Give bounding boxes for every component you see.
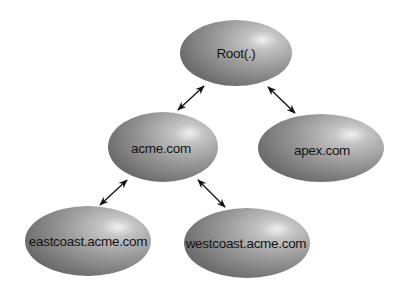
- edge-acme-eastcoast-arrow: [100, 180, 127, 205]
- edge-root-acme-arrow: [178, 86, 204, 110]
- node-apex-label: apex.com: [294, 143, 350, 158]
- edge-acme-westcoast-arrow: [198, 180, 225, 207]
- dns-hierarchy-diagram: Root(.) acme.com apex.com eastcoast.acme…: [0, 0, 407, 292]
- node-apex: apex.com: [258, 114, 384, 182]
- node-acme-label: acme.com: [131, 141, 191, 156]
- node-westcoast: westcoast.acme.com: [184, 208, 310, 278]
- edge-root-apex-arrow: [268, 87, 295, 113]
- node-acme: acme.com: [108, 112, 218, 182]
- node-root: Root(.): [180, 20, 292, 86]
- node-root-label: Root(.): [216, 46, 255, 61]
- node-eastcoast: eastcoast.acme.com: [25, 206, 151, 276]
- node-westcoast-label: westcoast.acme.com: [185, 236, 307, 251]
- node-eastcoast-label: eastcoast.acme.com: [29, 234, 147, 249]
